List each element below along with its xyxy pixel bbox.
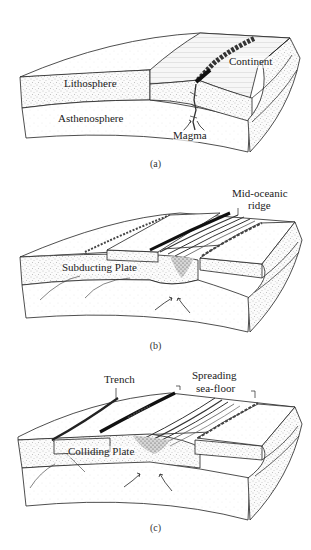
panel-c: Trench Spreading sea-floor Colliding Pla…: [0, 360, 311, 550]
block-diagram-a: [0, 0, 311, 180]
label-magma: Magma: [173, 130, 207, 142]
label-asthenosphere: Asthenosphere: [58, 113, 123, 125]
label-trench: Trench: [104, 374, 135, 386]
label-ridge: ridge: [248, 200, 271, 212]
label-mid-oceanic: Mid-oceanic: [232, 188, 288, 200]
label-subducting-plate: Subducting Plate: [62, 262, 137, 274]
panel-a: Lithosphere Asthenosphere Continent Magm…: [0, 0, 311, 180]
label-sea-floor: sea-floor: [196, 383, 235, 395]
label-spreading: Spreading: [192, 370, 237, 382]
label-colliding-plate: Colliding Plate: [68, 446, 134, 458]
caption-b: (b): [0, 340, 311, 351]
panel-b: Mid-oceanic ridge Subducting Plate (b): [0, 180, 311, 360]
label-lithosphere: Lithosphere: [64, 78, 117, 90]
caption-c: (c): [0, 522, 311, 533]
caption-a: (a): [0, 158, 311, 169]
label-continent: Continent: [229, 56, 272, 68]
